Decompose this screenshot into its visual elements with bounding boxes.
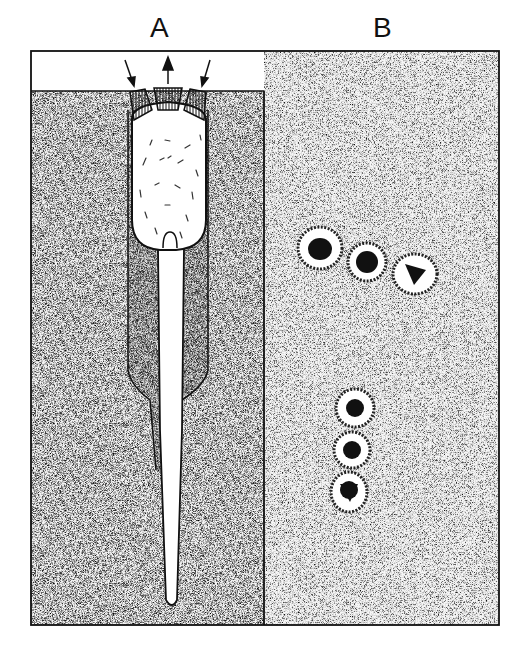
panel-a bbox=[31, 51, 264, 625]
panel-b bbox=[264, 51, 499, 625]
cell-body bbox=[132, 102, 206, 250]
figure-illustration bbox=[0, 0, 520, 649]
cell-chain-2 bbox=[331, 389, 374, 512]
